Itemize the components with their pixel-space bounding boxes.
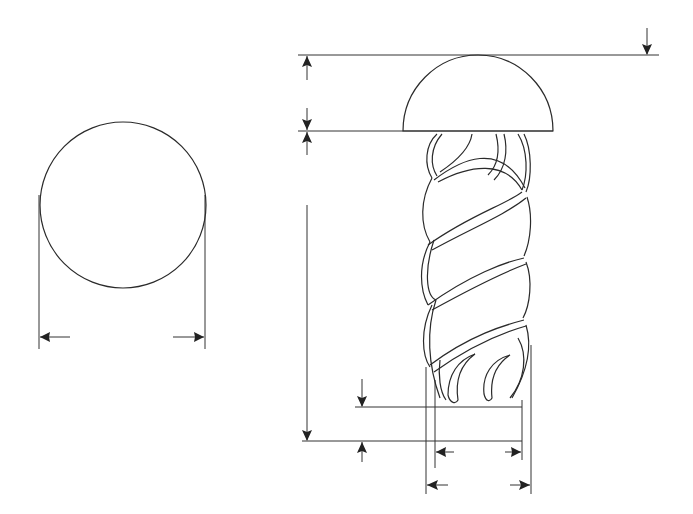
outer-diameter-dimension: [427, 480, 530, 490]
arrow-right-icon: [511, 447, 521, 457]
twisted-shank: [422, 134, 531, 403]
end-view: [39, 122, 206, 349]
head-height-dimension: [302, 56, 312, 155]
rivet-drawing: Rivet with round head and twisted shank …: [0, 0, 693, 514]
arrow-left-icon: [40, 332, 50, 342]
end-view-circle: [40, 122, 206, 288]
arrow-right-icon: [194, 332, 204, 342]
diameter-dimension: [40, 332, 204, 342]
arrow-left-icon: [436, 447, 446, 457]
tail-offset-dimension: [357, 379, 367, 462]
shank-length-dimension: [302, 205, 312, 441]
inner-diameter-dimension: [436, 447, 521, 457]
top-arrow: [642, 28, 652, 55]
rivet-head: [403, 55, 553, 131]
side-view: [298, 28, 659, 494]
